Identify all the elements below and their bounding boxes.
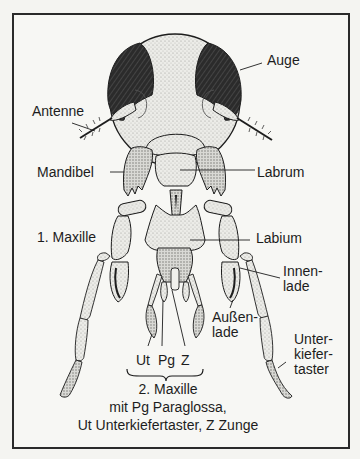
label-ut: Ut — [136, 353, 150, 368]
label-pg: Pg — [158, 353, 175, 368]
glossa — [171, 268, 179, 290]
label-mandibel: Mandibel — [37, 165, 94, 180]
brace — [127, 369, 203, 381]
labium — [145, 205, 205, 338]
label-auge: Auge — [267, 53, 300, 68]
label-aussenlade: Außen- lade — [212, 310, 258, 340]
caption-line-2: mit Pg Paraglossa, — [0, 399, 348, 415]
label-1-maxille: 1. Maxille — [37, 230, 96, 245]
label-labrum: Labrum — [257, 165, 304, 180]
label-labium: Labium — [256, 231, 302, 246]
caption-line-1: 2. Maxille — [0, 381, 348, 397]
labrum — [155, 153, 196, 186]
paraglossa-left — [161, 282, 168, 302]
labial-palp-right — [188, 274, 202, 306]
paraglossa-right — [183, 282, 190, 302]
label-innenlade: Innen- lade — [283, 264, 323, 294]
label-unterkiefertaster: Unter- kiefer- taster — [294, 332, 333, 377]
labial-palp-left — [148, 274, 162, 306]
head-capsule — [108, 34, 241, 166]
label-z: Z — [181, 353, 190, 368]
label-antenne: Antenne — [32, 104, 84, 119]
caption-line-3: Ut Unterkiefertaster, Z Zunge — [0, 417, 348, 433]
